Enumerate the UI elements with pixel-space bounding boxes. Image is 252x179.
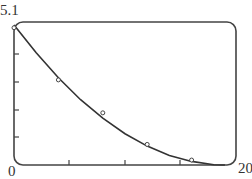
- data-point: [12, 26, 16, 30]
- fitted-curve: [14, 25, 225, 165]
- origin-label: 0: [8, 164, 16, 179]
- data-point: [56, 78, 60, 82]
- data-points: [12, 26, 194, 162]
- data-point: [190, 158, 194, 162]
- chart-plot: [0, 0, 252, 179]
- data-point: [101, 111, 105, 115]
- y-max-label: 5.1: [0, 3, 19, 18]
- plot-frame: [14, 22, 236, 165]
- x-max-label: 20: [238, 161, 252, 176]
- data-point: [145, 142, 149, 146]
